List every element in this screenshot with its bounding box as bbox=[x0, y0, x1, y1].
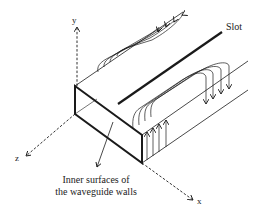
axis-z-label: z bbox=[15, 154, 19, 163]
front-opening bbox=[75, 86, 142, 163]
caption-pointer bbox=[97, 122, 113, 167]
x-axis bbox=[142, 163, 193, 200]
caption-line-2: the waveguide walls bbox=[52, 186, 140, 198]
z-axis bbox=[26, 114, 75, 156]
caption-line-1: Inner surfaces of bbox=[52, 174, 140, 186]
current-lines-top-left bbox=[98, 15, 183, 72]
inner-surfaces-caption: Inner surfaces of the waveguide walls bbox=[52, 174, 140, 198]
current-lines-top-right bbox=[133, 63, 229, 129]
axis-x-label: x bbox=[197, 197, 202, 206]
waveguide-diagram: y z x Slot Inner surfaces of the wavegui… bbox=[0, 0, 262, 216]
side-wall-up-arrows bbox=[147, 120, 166, 160]
axis-y-label: y bbox=[72, 16, 77, 25]
slot-label: Slot bbox=[226, 22, 242, 32]
